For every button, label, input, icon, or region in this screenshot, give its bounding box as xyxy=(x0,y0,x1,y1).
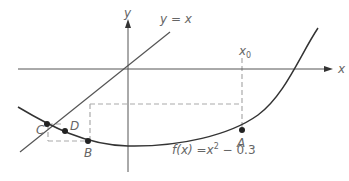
parabola-curve xyxy=(18,28,318,146)
point-b-label: B xyxy=(84,146,92,160)
x-axis-arrow-icon xyxy=(324,66,333,72)
point-a xyxy=(239,127,245,133)
line-label: y = x xyxy=(159,12,193,26)
y-axis-arrow-icon xyxy=(125,19,131,28)
point-d-label: D xyxy=(70,119,79,133)
y-axis-label: y xyxy=(123,6,132,20)
point-b xyxy=(85,138,91,144)
curve-label: f(x) =x2 − 0.3 xyxy=(172,142,256,157)
point-c-label: C xyxy=(36,123,45,137)
point-c xyxy=(44,121,50,127)
x0-label: x0 xyxy=(238,44,251,60)
iteration-diagram: x y y = x x0 A B C D f(x) =x2 − 0.3 xyxy=(0,0,349,181)
point-d xyxy=(62,128,68,134)
x-axis-label: x xyxy=(337,62,346,76)
diagram-canvas: x y y = x x0 A B C D f(x) =x2 − 0.3 xyxy=(0,0,349,181)
